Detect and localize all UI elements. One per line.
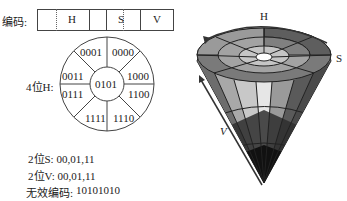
cone-h-label: H xyxy=(260,10,268,22)
hsv-cone-graphic xyxy=(0,0,347,201)
cone-v-label: V xyxy=(220,125,227,137)
cone-s-label: S xyxy=(336,52,342,64)
